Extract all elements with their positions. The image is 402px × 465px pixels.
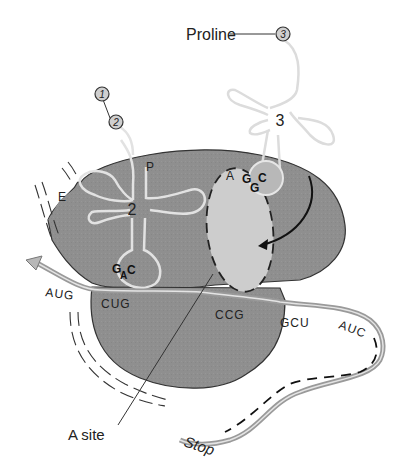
- amino-acid-1-label: 1: [99, 89, 105, 100]
- amino-acid-2: 2: [109, 115, 123, 129]
- amino-acid-3: 3: [276, 27, 290, 41]
- proline-label: Proline: [186, 26, 236, 43]
- e-site-label: E: [58, 190, 66, 204]
- codon-auc: AUC: [337, 318, 368, 341]
- stop-label: Stop: [182, 433, 217, 459]
- anticodon-base: C: [127, 263, 136, 277]
- codon-gcu: GCU: [280, 316, 310, 330]
- anticodon-base: C: [258, 171, 267, 185]
- p-site-label: P: [146, 160, 154, 174]
- a-site-callout-label: A site: [68, 426, 105, 443]
- codon-aug: AUG: [45, 285, 76, 303]
- trna-2-number: 2: [128, 201, 137, 218]
- codon-cug: CUG: [101, 297, 131, 311]
- amino-acid-2-label: 2: [112, 117, 119, 128]
- codon-ccg: CCG: [215, 308, 245, 322]
- amino-acid-1: 1: [95, 87, 109, 101]
- amino-acid-3-label: 3: [280, 29, 286, 40]
- ribosome-diagram: 1 2 3 Proline 2 3 E P A G A C G G C: [0, 0, 402, 465]
- trna-3-number: 3: [276, 112, 285, 129]
- a-site-label: A: [226, 169, 234, 183]
